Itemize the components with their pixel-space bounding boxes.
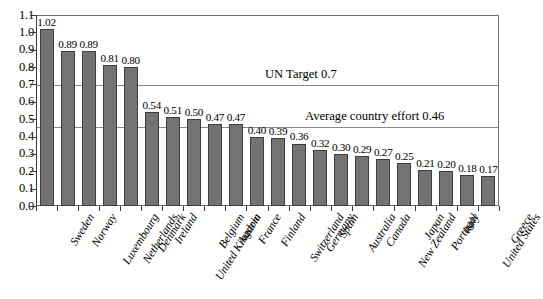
y-tick-label: 0.6	[0, 95, 34, 107]
bar-value-label: 0.80	[116, 55, 146, 66]
x-tick-mark	[78, 206, 79, 211]
bar	[40, 29, 54, 206]
annotation-un-target: UN Target 0.7	[265, 68, 337, 81]
x-tick-mark	[183, 206, 184, 211]
y-tick-label: 1.1	[0, 9, 34, 21]
y-tick-label: 1.0	[0, 26, 34, 38]
bar	[187, 119, 201, 206]
bar	[439, 171, 453, 206]
x-axis-category-label: Italy	[461, 212, 482, 236]
x-tick-mark	[268, 206, 269, 211]
y-tick-label: 0.0	[0, 200, 34, 212]
x-tick-mark	[352, 206, 353, 211]
y-tick-label: 0.8	[0, 61, 34, 73]
x-tick-mark	[457, 206, 458, 211]
annotation-average-effort: Average country effort 0.46	[305, 110, 444, 123]
x-tick-mark	[415, 206, 416, 211]
bar	[397, 163, 411, 206]
bar	[334, 154, 348, 206]
bar	[355, 156, 369, 206]
y-tick-label: 0.5	[0, 113, 34, 125]
bar	[145, 112, 159, 206]
y-tick-label: 0.1	[0, 182, 34, 194]
x-tick-mark	[499, 206, 500, 211]
x-tick-mark	[57, 206, 58, 211]
x-tick-mark	[331, 206, 332, 211]
bar	[229, 124, 243, 206]
bar	[271, 138, 285, 206]
bar	[313, 150, 327, 206]
bar	[82, 51, 96, 206]
bar	[208, 124, 222, 206]
bar-value-label: 0.17	[473, 164, 503, 175]
bar	[61, 51, 75, 206]
x-tick-mark	[99, 206, 100, 211]
x-tick-mark	[141, 206, 142, 211]
y-tick-label: 0.3	[0, 147, 34, 159]
bar-value-label: 0.89	[74, 39, 104, 50]
bar	[481, 176, 495, 206]
x-tick-mark	[36, 206, 37, 211]
bar	[376, 159, 390, 206]
bar	[166, 117, 180, 206]
bar	[250, 137, 264, 206]
bar-value-label: 1.02	[32, 17, 62, 28]
bar	[124, 67, 138, 206]
y-tick-label: 0.2	[0, 165, 34, 177]
bar-value-label: 0.47	[221, 112, 251, 123]
x-tick-mark	[246, 206, 247, 211]
y-tick-label: 0.7	[0, 78, 34, 90]
x-tick-mark	[373, 206, 374, 211]
x-tick-mark	[289, 206, 290, 211]
y-tick-label: 0.4	[0, 130, 34, 142]
bar	[292, 144, 306, 207]
x-tick-mark	[436, 206, 437, 211]
x-tick-mark	[204, 206, 205, 211]
bar	[418, 170, 432, 206]
y-tick-label: 0.9	[0, 43, 34, 55]
x-tick-mark	[310, 206, 311, 211]
x-tick-mark	[478, 206, 479, 211]
bar	[460, 175, 474, 206]
x-tick-mark	[120, 206, 121, 211]
x-tick-mark	[394, 206, 395, 211]
x-tick-mark	[225, 206, 226, 211]
x-tick-mark	[162, 206, 163, 211]
bar	[103, 65, 117, 206]
